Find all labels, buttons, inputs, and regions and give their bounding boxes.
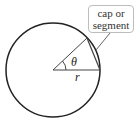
- angle-arc: [63, 61, 67, 70]
- angle-label: θ: [71, 55, 77, 70]
- chord: [87, 38, 100, 70]
- callout-line-2: segment: [89, 19, 133, 31]
- callout-leader: [96, 33, 110, 50]
- callout-line-1: cap or: [89, 7, 133, 19]
- callout-box: cap or segment: [88, 5, 134, 33]
- angle-ray: [53, 38, 87, 70]
- radius-label: r: [75, 70, 80, 85]
